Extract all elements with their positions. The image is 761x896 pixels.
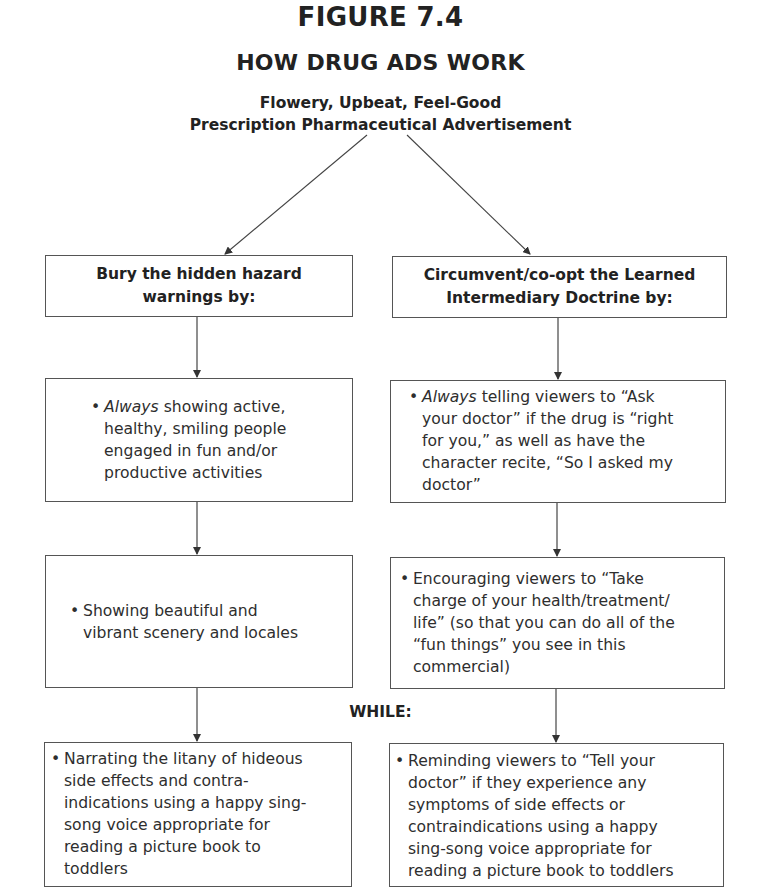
while-connector-label: WHILE: xyxy=(0,703,761,721)
right-item-box-2: •Encouraging viewers to “Take charge of … xyxy=(390,557,725,689)
right-header-line: Circumvent/co-opt the Learned xyxy=(424,264,696,287)
italic-lead: Always xyxy=(104,398,159,416)
bullet-icon: • xyxy=(91,396,100,418)
left-header-box: Bury the hidden hazard warnings by: xyxy=(45,255,353,317)
right-item-box-1: •Always telling viewers to “Ask your doc… xyxy=(390,380,726,503)
root-node-line: Prescription Pharmaceutical Advertisemen… xyxy=(0,114,761,136)
bullet-icon: • xyxy=(409,386,418,408)
left-item-box-2: •Showing beautiful and vibrant scenery a… xyxy=(45,555,353,688)
arrow-root-to-right xyxy=(407,135,530,254)
root-node-ad: Flowery, Upbeat, Feel-Good Prescription … xyxy=(0,92,761,136)
right-item-box-3: •Reminding viewers to “Tell your doctor”… xyxy=(389,743,724,887)
arrow-root-to-left xyxy=(225,135,367,254)
bullet-icon: • xyxy=(395,750,404,772)
bullet-icon: • xyxy=(51,748,60,770)
left-item-box-3: •Narrating the litany of hideous side ef… xyxy=(44,742,352,887)
figure-label: FIGURE 7.4 xyxy=(0,2,761,32)
left-header-line: Bury the hidden hazard xyxy=(96,263,302,286)
right-header-line: Intermediary Doctrine by: xyxy=(446,287,672,310)
bullet-icon: • xyxy=(400,568,409,590)
root-node-line: Flowery, Upbeat, Feel-Good xyxy=(0,92,761,114)
left-header-line: warnings by: xyxy=(143,286,256,309)
bullet-icon: • xyxy=(70,600,79,622)
italic-lead: Always xyxy=(422,388,477,406)
left-item-box-1: •Always showing active, healthy, smiling… xyxy=(45,378,353,502)
diagram-title: HOW DRUG ADS WORK xyxy=(0,50,761,75)
right-header-box: Circumvent/co-opt the Learned Intermedia… xyxy=(392,256,727,318)
